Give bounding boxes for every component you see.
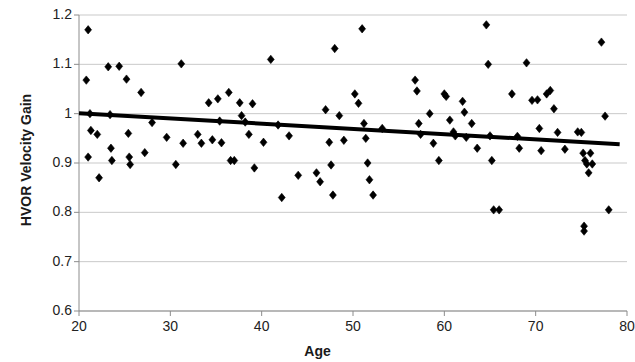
data-point <box>474 144 481 152</box>
data-point <box>138 88 145 96</box>
data-point <box>426 109 433 117</box>
data-point <box>336 111 343 119</box>
data-point <box>485 60 492 68</box>
data-point <box>322 106 329 114</box>
data-point <box>180 139 187 147</box>
data-point <box>245 130 252 138</box>
x-axis-title: Age <box>0 343 635 359</box>
data-point <box>108 144 115 152</box>
data-point <box>340 136 347 144</box>
plot-area <box>0 0 635 362</box>
data-point <box>359 25 366 33</box>
data-point <box>554 128 561 136</box>
x-tick-label-20: 20 <box>54 318 104 334</box>
data-point <box>218 139 225 147</box>
data-point <box>516 144 523 152</box>
data-point <box>85 26 92 34</box>
data-point <box>178 60 185 68</box>
data-point <box>461 108 468 116</box>
data-point <box>214 95 221 103</box>
x-tick-label-80: 80 <box>602 318 635 334</box>
data-point <box>430 139 437 147</box>
data-point <box>362 134 369 142</box>
x-tick-label-60: 60 <box>419 318 469 334</box>
data-point <box>205 99 212 107</box>
data-point <box>209 136 216 144</box>
data-point <box>580 149 587 157</box>
data-point <box>96 174 103 182</box>
data-point <box>468 119 475 127</box>
data-point <box>585 169 592 177</box>
data-point <box>85 153 92 161</box>
data-point <box>536 124 543 132</box>
data-point <box>249 100 256 108</box>
y-tick-label-0.6: 0.6 <box>30 303 72 317</box>
data-point <box>415 119 422 127</box>
x-tick-label-50: 50 <box>328 318 378 334</box>
x-axis-ticks <box>79 311 627 316</box>
data-point <box>286 132 293 140</box>
data-point <box>242 118 249 126</box>
data-point <box>198 139 205 147</box>
y-axis-ticks <box>74 15 79 311</box>
data-point <box>267 55 274 63</box>
data-point <box>313 169 320 177</box>
data-point <box>550 105 557 113</box>
gridlines <box>79 15 627 311</box>
data-point <box>508 90 515 98</box>
y-tick-label-1: 1 <box>30 106 72 120</box>
data-point <box>251 164 258 172</box>
y-tick-label-0.9: 0.9 <box>30 155 72 169</box>
data-point <box>534 96 541 104</box>
data-point <box>194 130 201 138</box>
x-tick-label-40: 40 <box>237 318 287 334</box>
data-point <box>361 119 368 127</box>
y-tick-label-1.2: 1.2 <box>30 7 72 21</box>
data-point <box>351 90 358 98</box>
data-point <box>107 110 114 118</box>
data-point <box>523 59 530 67</box>
data-point <box>459 97 466 105</box>
data-point <box>116 62 123 70</box>
data-point <box>581 227 588 235</box>
data-point <box>561 145 568 153</box>
data-point <box>141 148 148 156</box>
data-point <box>87 126 94 134</box>
data-point <box>538 146 545 154</box>
data-point <box>355 99 362 107</box>
scatter-chart: HVOR Velocity Gain Age 1.21.110.90.80.70… <box>0 0 635 362</box>
x-tick-label-70: 70 <box>511 318 561 334</box>
data-point <box>94 130 101 138</box>
y-tick-label-1.1: 1.1 <box>30 56 72 70</box>
data-point <box>598 38 605 46</box>
data-point <box>126 153 133 161</box>
data-point <box>587 149 594 157</box>
data-point <box>331 44 338 52</box>
y-tick-label-0.7: 0.7 <box>30 254 72 268</box>
data-point <box>216 117 223 125</box>
data-point <box>83 76 90 84</box>
data-point <box>238 111 245 119</box>
data-point <box>326 138 333 146</box>
data-point <box>87 109 94 117</box>
data-point <box>236 99 243 107</box>
data-point <box>275 121 282 129</box>
data-point <box>412 76 419 84</box>
data-point <box>225 88 232 96</box>
data-point <box>125 129 132 137</box>
data-point <box>295 171 302 179</box>
data-point <box>317 178 324 186</box>
data-point <box>278 193 285 201</box>
data-point <box>370 191 377 199</box>
data-point <box>483 21 490 29</box>
data-point <box>163 133 170 141</box>
data-point <box>446 116 453 124</box>
y-tick-label-0.8: 0.8 <box>30 204 72 218</box>
data-point <box>364 159 371 167</box>
data-point <box>413 87 420 95</box>
data-point <box>260 138 267 146</box>
x-tick-label-30: 30 <box>145 318 195 334</box>
data-point <box>123 75 130 83</box>
data-point <box>172 160 179 168</box>
data-point <box>329 191 336 199</box>
